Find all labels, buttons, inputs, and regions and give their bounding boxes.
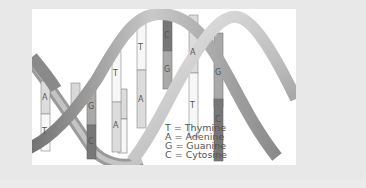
dna-diagram-panel: A T G C T A T A C G A T G C T = Thymine … bbox=[32, 9, 296, 165]
base-label: T bbox=[113, 69, 118, 78]
base-label: G bbox=[215, 68, 221, 77]
base-label: A bbox=[42, 93, 47, 102]
base-label: C bbox=[164, 31, 170, 40]
base-label: C bbox=[88, 137, 94, 146]
base-label: G bbox=[88, 102, 94, 111]
base-label: T bbox=[138, 43, 143, 52]
base-label: A bbox=[138, 95, 143, 104]
base-label: T bbox=[190, 101, 195, 110]
base-label: T bbox=[42, 127, 47, 136]
legend-item-cytosine: C = Cytosine bbox=[165, 150, 227, 159]
base-label: A bbox=[190, 48, 195, 57]
base-label: A bbox=[113, 121, 118, 130]
base-label: G bbox=[164, 65, 170, 74]
legend: T = Thymine A = Adenine G = Guanine C = … bbox=[165, 123, 227, 159]
